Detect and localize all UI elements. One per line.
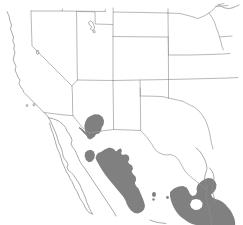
range-map-figure [0,0,243,225]
oregon-idaho-boundary [62,9,63,11]
interior-isolated-dot-4 [152,198,154,200]
interior-isolated-dot-3 [174,197,177,200]
interior-isolated-dot-1 [152,192,156,197]
idaho-north-boundary [105,10,106,12]
map-canvas [0,0,243,225]
interior-isolated-dot-2 [166,196,169,199]
